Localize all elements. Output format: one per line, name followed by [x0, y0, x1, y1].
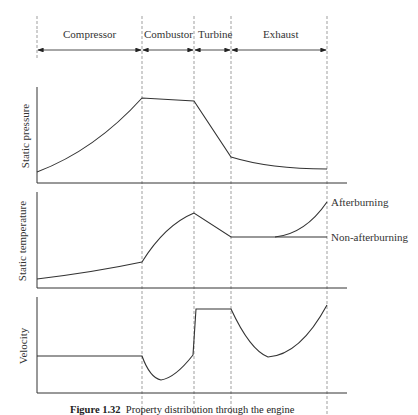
ylabel-velocity: Velocity: [17, 316, 29, 376]
axes: [37, 87, 347, 393]
velocity-curve: [37, 305, 327, 380]
caption-number: Figure 1.32: [70, 404, 121, 415]
temperature-curve: [37, 213, 327, 279]
afterburning-curve: [275, 202, 327, 237]
annotation-non-afterburning: Non-afterburning: [331, 231, 408, 243]
annotation-afterburning: Afterburning: [331, 196, 388, 208]
ylabel-temperature: Static temperature: [16, 191, 28, 291]
pressure-curve: [37, 98, 327, 172]
section-label-compressor: Compressor: [63, 28, 116, 40]
figure-caption: Figure 1.32 Property distribution throug…: [70, 404, 294, 415]
section-label-turbine: Turbine: [198, 28, 232, 40]
section-label-exhaust: Exhaust: [263, 28, 298, 40]
ylabel-pressure: Static pressure: [19, 96, 31, 176]
caption-text: Property distribution through the engine: [126, 404, 295, 415]
section-dividers: [37, 16, 327, 414]
section-label-combustor: Combustor: [144, 28, 193, 40]
